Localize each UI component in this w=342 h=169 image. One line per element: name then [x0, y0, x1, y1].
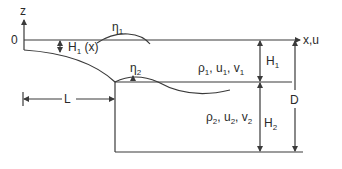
eta1-label: η1: [112, 20, 124, 36]
d-label: D: [290, 93, 299, 107]
h2-arrow: H2: [260, 83, 278, 151]
h1-arrow: H1: [260, 41, 280, 81]
h2-label: H2: [264, 116, 278, 132]
h1x-arrow: H1 (x): [60, 40, 98, 56]
d-arrow: D: [288, 41, 302, 151]
z-axis-label: z: [20, 4, 26, 18]
eta2-label: η2: [130, 61, 142, 77]
sloping-bottom-curve: [24, 50, 115, 82]
stratified-flow-diagram: z 0 x,u η1 H1 (x) η2 ρ1, u1, v1: [0, 0, 342, 169]
h1x-label: H1 (x): [68, 40, 98, 56]
h1-label: H1: [266, 54, 280, 70]
l-dimension-arrow: L: [23, 92, 114, 106]
lower-layer-properties: ρ2, u2, v2: [206, 110, 253, 126]
upper-layer-properties: ρ1, u1, v1: [198, 61, 245, 77]
x-axis-label: x,u: [303, 33, 319, 47]
z-axis: z: [20, 4, 26, 50]
l-label: L: [64, 92, 71, 106]
origin-label: 0: [11, 33, 18, 47]
